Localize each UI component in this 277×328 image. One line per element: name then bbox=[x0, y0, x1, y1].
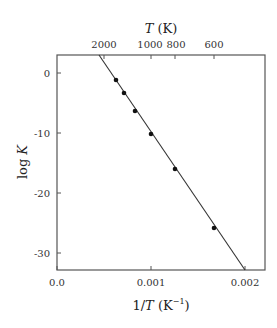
plot-frame bbox=[57, 55, 265, 270]
data-point bbox=[133, 109, 138, 114]
y-tick-label: -10 bbox=[34, 128, 50, 139]
top-axis-title: T (K) bbox=[145, 21, 178, 36]
x-axis-title: 1/T (K−1) bbox=[132, 297, 189, 313]
x-tick-label: 0.0 bbox=[49, 277, 65, 288]
top-tick-label: 1000 bbox=[137, 39, 162, 50]
data-point bbox=[114, 78, 119, 83]
top-tick-label: 600 bbox=[204, 39, 223, 50]
y-tick-label: -30 bbox=[34, 248, 50, 259]
data-point bbox=[149, 132, 154, 137]
data-point bbox=[173, 167, 178, 172]
data-point bbox=[212, 226, 217, 231]
data-point bbox=[122, 91, 127, 96]
y-axis-title: log K bbox=[15, 144, 30, 179]
top-tick-label: 2000 bbox=[91, 39, 116, 50]
bottom-x-ticks bbox=[57, 266, 245, 270]
data-points bbox=[114, 78, 217, 231]
chart-canvas: 0.0 0.001 0.002 0 -10 -20 -30 2000 1000 … bbox=[0, 0, 277, 328]
top-tick-label: 800 bbox=[166, 39, 185, 50]
y-tick-label: -20 bbox=[34, 188, 50, 199]
fit-line bbox=[99, 55, 245, 270]
y-tick-label: 0 bbox=[44, 68, 50, 79]
x-tick-label: 0.002 bbox=[231, 277, 260, 288]
x-tick-label: 0.001 bbox=[137, 277, 166, 288]
